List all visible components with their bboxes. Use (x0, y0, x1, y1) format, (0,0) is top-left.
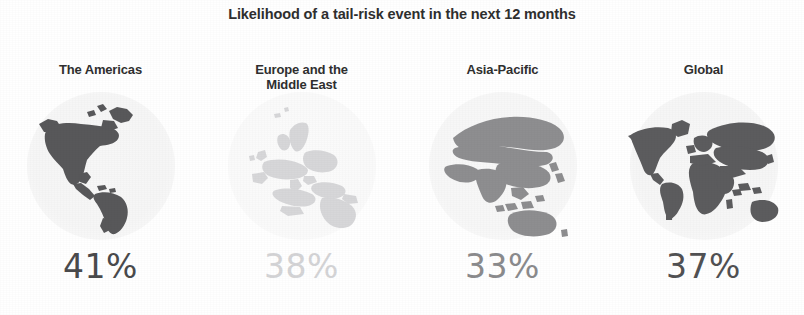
region-value-asia-pacific: 33% (465, 248, 540, 286)
globe-world-shape (620, 90, 788, 242)
region-panel-global: Global (603, 56, 804, 315)
region-label-americas: The Americas (6, 56, 196, 88)
region-panel-europe-middle-east: Europe and the Middle East (201, 56, 402, 315)
region-label-global: Global (609, 56, 799, 88)
region-panel-americas: The Americas (0, 56, 201, 315)
globe-europe-middle-east-icon (218, 90, 386, 242)
region-label-europe-middle-east: Europe and the Middle East (207, 56, 397, 88)
globe-americas-icon (17, 90, 185, 242)
chart-title: Likelihood of a tail-risk event in the n… (0, 4, 804, 24)
region-panel-row: The Americas (0, 56, 804, 315)
globe-asia-pacific-icon (419, 90, 587, 242)
region-value-global: 37% (666, 248, 741, 286)
tail-risk-likelihood-chart: Likelihood of a tail-risk event in the n… (0, 0, 804, 315)
region-panel-asia-pacific: Asia-Pacific (402, 56, 603, 315)
globe-europe-middle-east-shape (218, 90, 386, 242)
region-value-europe-middle-east: 38% (264, 248, 339, 286)
globe-asia-pacific-shape (419, 90, 587, 242)
globe-world-icon (620, 90, 788, 242)
region-label-asia-pacific: Asia-Pacific (408, 56, 598, 88)
region-value-americas: 41% (63, 248, 138, 286)
globe-americas-shape (17, 90, 185, 242)
